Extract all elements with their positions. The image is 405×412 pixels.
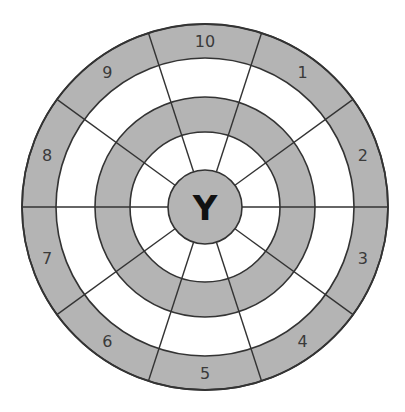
sector-label-8: 8 [42,146,52,165]
sector-label-1: 1 [297,63,307,82]
sector-label-9: 9 [102,63,112,82]
target-board: Y 12345678910 [0,0,405,412]
sector-label-10: 10 [195,32,215,51]
center-group: Y [168,170,242,244]
sector-label-4: 4 [297,332,307,351]
center-label: Y [192,188,218,228]
sector-label-3: 3 [358,249,368,268]
sector-label-2: 2 [358,146,368,165]
sector-label-6: 6 [102,332,112,351]
sector-label-5: 5 [200,364,210,383]
sector-label-7: 7 [42,249,52,268]
